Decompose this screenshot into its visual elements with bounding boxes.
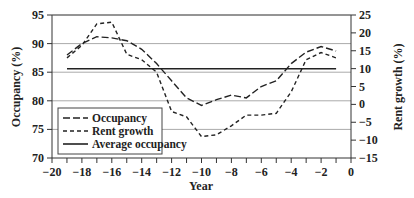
legend-label: Occupancy <box>92 112 147 125</box>
x-tick-label: −2 <box>315 165 328 179</box>
y2-tick-label: −15 <box>359 151 378 165</box>
y-tick-label: 80 <box>32 94 44 108</box>
y2-tick-label: 5 <box>359 80 365 94</box>
y2-tick-label: −10 <box>359 133 378 147</box>
series-occupancy <box>67 37 336 106</box>
x-tick-label: −20 <box>43 165 62 179</box>
y2-tick-label: 20 <box>359 26 371 40</box>
legend-label: Rent growth <box>92 125 154 138</box>
x-tick-label: −18 <box>72 165 91 179</box>
y-axis-title: Occupancy (%) <box>9 47 23 127</box>
line-chart: 707580859095−15−10−50510152025−20−18−16−… <box>0 0 414 198</box>
y-tick-label: 95 <box>32 8 44 22</box>
x-tick-label: −4 <box>285 165 298 179</box>
legend-label: Average occupancy <box>92 138 187 151</box>
x-tick-label: −14 <box>132 165 151 179</box>
legend: OccupancyRent growthAverage occupancy <box>58 108 187 154</box>
x-tick-label: −6 <box>255 165 268 179</box>
x-tick-label: −10 <box>192 165 211 179</box>
y-tick-label: 70 <box>32 151 44 165</box>
x-tick-label: 0 <box>348 165 354 179</box>
x-tick-label: −8 <box>225 165 238 179</box>
x-tick-label: −16 <box>102 165 121 179</box>
y-tick-label: 75 <box>32 122 44 136</box>
x-axis-title: Year <box>189 179 214 193</box>
y-tick-label: 85 <box>32 65 44 79</box>
y2-tick-label: 25 <box>359 8 371 22</box>
y2-tick-label: −5 <box>359 115 372 129</box>
y2-tick-label: 0 <box>359 97 365 111</box>
y2-axis-title: Rent growth (%) <box>391 43 405 130</box>
y2-tick-label: 10 <box>359 62 371 76</box>
y-tick-label: 90 <box>32 37 44 51</box>
y2-tick-label: 15 <box>359 44 371 58</box>
x-tick-label: −12 <box>162 165 181 179</box>
